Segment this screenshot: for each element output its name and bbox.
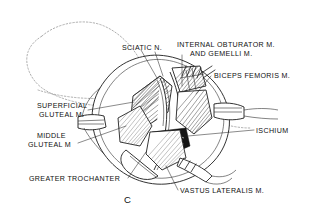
label-middle-gluteal-line2: GLUTEAL M xyxy=(28,141,71,149)
right-skin-flap xyxy=(214,103,278,120)
label-sciatic-nerve: SCIATIC N. xyxy=(122,44,162,52)
label-vastus-lateralis: VASTUS LATERALIS M. xyxy=(180,187,264,195)
label-superficial-gluteal-line2: GLUTEAL M. xyxy=(39,111,84,119)
anatomical-figure: SCIATIC N. INTERNAL OBTURATOR M. AND GEM… xyxy=(0,0,310,218)
label-middle-gluteal-line1: MIDDLE xyxy=(37,132,66,140)
label-internal-obturator-line2: AND GEMELLI M. xyxy=(190,50,252,58)
label-biceps-femoris: BICEPS FEMORIS M. xyxy=(214,72,290,80)
figure-letter: C xyxy=(124,194,131,205)
label-superficial-gluteal-line1: SUPERFICIAL xyxy=(37,102,87,110)
label-ischium: ISCHIUM xyxy=(256,127,288,135)
illustration-canvas: SCIATIC N. INTERNAL OBTURATOR M. AND GEM… xyxy=(0,0,310,218)
label-internal-obturator-line1: INTERNAL OBTURATOR M. xyxy=(177,41,275,49)
label-greater-trochanter: GREATER TROCHANTER xyxy=(29,175,120,183)
